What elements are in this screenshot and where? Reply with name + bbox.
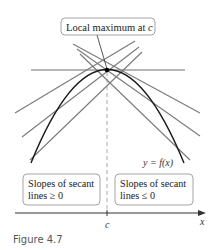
left-box-line2: lines ≥ 0 [28, 190, 63, 201]
left-box-line1: Slopes of secant [28, 178, 94, 189]
local-maximum-diagram: Local maximum at c y = f(x) Slopes of se… [0, 0, 214, 250]
secant-lines-right-of-c [73, 44, 200, 160]
right-box-line2: lines ≤ 0 [120, 190, 155, 201]
secant-lines-left-of-c [15, 41, 142, 160]
right-box-line1: Slopes of secant [120, 178, 186, 189]
figure-caption: Figure 4.7 [13, 234, 63, 245]
local-maximum-point [105, 68, 110, 73]
x-axis-label: x [199, 216, 205, 227]
local-maximum-label: Local maximum at c [66, 22, 153, 33]
curve-label: y = f(x) [142, 157, 174, 169]
x-tick-label-c: c [105, 219, 110, 230]
